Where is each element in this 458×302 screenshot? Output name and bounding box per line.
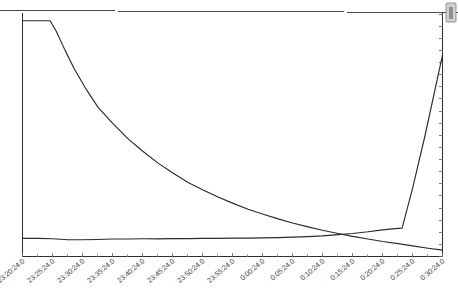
x-tick-label: 23:55:24.0 <box>205 257 236 285</box>
chart-screenshot: 23:20:24.023:25:24.023:30:24.023:35:24.0… <box>0 0 458 302</box>
x-tick-label: 23:45:24.0 <box>145 257 176 285</box>
y-axis-right-ticks <box>439 14 443 257</box>
x-tick-label: 23:50:24.0 <box>175 257 206 285</box>
x-tick-label: 0:20:24.0 <box>358 257 386 283</box>
x-tick-label: 0:15:24.0 <box>328 257 356 283</box>
x-tick-label: 23:20:24.0 <box>0 257 26 285</box>
x-tick-label: 0:00:24.0 <box>238 257 266 283</box>
x-tick-label: 0:05:24.0 <box>268 257 296 283</box>
x-tick-label: 23:30:24.0 <box>55 257 86 285</box>
x-tick-label: 0:30:24.0 <box>418 257 446 283</box>
x-tick-label: 23:35:24.0 <box>85 257 116 285</box>
x-tick-label: 0:25:24.0 <box>388 257 416 283</box>
vertical-scrollbar-thumb[interactable] <box>446 3 456 22</box>
x-tick-label: 23:40:24.0 <box>115 257 146 285</box>
x-tick-label: 23:25:24.0 <box>25 257 56 285</box>
plot-background <box>22 10 443 256</box>
time-series-chart: 23:20:24.023:25:24.023:30:24.023:35:24.0… <box>0 0 458 302</box>
x-axis-tick-labels: 23:20:24.023:25:24.023:30:24.023:35:24.0… <box>0 257 446 285</box>
x-tick-label: 0:10:24.0 <box>298 257 326 283</box>
